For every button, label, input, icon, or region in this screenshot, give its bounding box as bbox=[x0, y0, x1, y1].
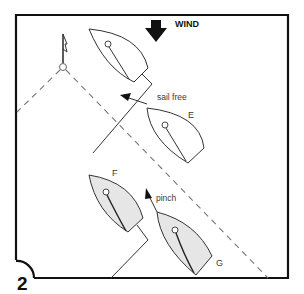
boat-f-label: F bbox=[112, 168, 118, 178]
sailing-diagram: 2 WIND sail free E F bbox=[0, 0, 304, 294]
boat-f bbox=[89, 175, 148, 278]
wind-arrow-icon bbox=[145, 20, 167, 42]
mark-flag-icon bbox=[60, 34, 68, 71]
pinch-label: pinch bbox=[156, 193, 177, 203]
sail-free-label: sail free bbox=[157, 92, 187, 102]
boat-g-label: G bbox=[216, 258, 223, 268]
figure-number: 2 bbox=[17, 273, 28, 294]
boat-g bbox=[157, 212, 212, 275]
wind-label: WIND bbox=[175, 19, 199, 29]
boat-e-label: E bbox=[188, 110, 194, 120]
frame bbox=[16, 15, 288, 278]
boat-e bbox=[147, 108, 204, 163]
boat-d bbox=[89, 29, 152, 153]
layline-dashed bbox=[17, 70, 268, 278]
